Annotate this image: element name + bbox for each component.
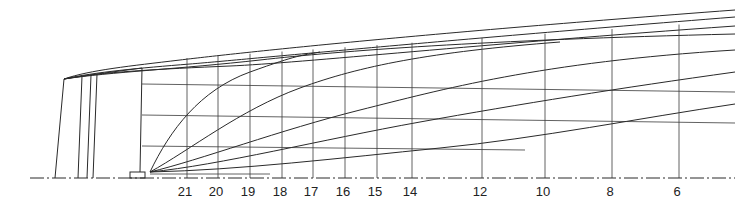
keel-detail: [130, 172, 270, 178]
buttock-lines: [150, 42, 735, 172]
station-label: 21: [178, 184, 192, 199]
station-label: 10: [536, 184, 550, 199]
station-label: 6: [673, 184, 680, 199]
keel-plate: [130, 172, 145, 178]
station-label: 17: [304, 184, 318, 199]
station-lines: [187, 25, 679, 178]
sheer-lines: [64, 10, 735, 79]
station-label: 14: [403, 184, 417, 199]
station-label: 16: [336, 184, 350, 199]
station-label: 19: [241, 184, 255, 199]
stern-vertical: [78, 76, 82, 178]
stern-vertical: [93, 74, 97, 178]
station-labels: 2120191817161514121086: [178, 184, 681, 199]
stern-vertical: [55, 79, 64, 178]
buttock-line: [150, 50, 735, 172]
stern-vertical: [140, 68, 142, 172]
stern-vertical: [87, 75, 91, 178]
buttock-line: [150, 104, 735, 172]
buttock-line: [150, 42, 560, 172]
station-label: 8: [606, 184, 613, 199]
buttock-line: [150, 52, 320, 172]
waterlines: [142, 84, 735, 150]
sheer-line: [64, 26, 735, 79]
stern-profile-lines: [55, 68, 142, 178]
waterline: [142, 146, 525, 150]
station-label: 20: [209, 184, 223, 199]
lines-plan-drawing: 2120191817161514121086: [0, 0, 740, 213]
station-label: 15: [368, 184, 382, 199]
sheer-line: [64, 34, 735, 79]
station-label: 18: [273, 184, 287, 199]
station-label: 12: [473, 184, 487, 199]
